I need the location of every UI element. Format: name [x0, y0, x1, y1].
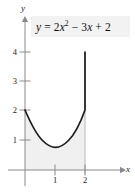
x-tick-label-1: 1	[48, 175, 62, 185]
y-tick-label-4: 4	[4, 47, 17, 57]
y-axis-label: y	[21, 3, 25, 13]
y-axis-arrow-icon	[22, 16, 28, 22]
equation-equals: =	[44, 21, 51, 33]
equation-plus-sign: +	[95, 21, 102, 33]
x-tick-label-2: 2	[78, 175, 92, 185]
shaded-area-under-curve	[25, 52, 85, 170]
y-tick-label-1: 1	[4, 135, 17, 145]
equation-term2-var: x	[87, 21, 92, 33]
x-axis-label: x	[126, 164, 130, 174]
y-tick-label-3: 3	[4, 76, 17, 86]
equation-lhs: y	[36, 21, 41, 33]
equation-minus-sign: −	[72, 21, 79, 33]
equation-constant: 2	[105, 21, 111, 33]
equation-label: y = 2x2 − 3x + 2	[36, 19, 128, 35]
equation-term1-exponent: 2	[65, 19, 69, 28]
graph-figure: y = 2x2 − 3x + 2 y x 1 2 1 2 3 4	[0, 0, 135, 196]
y-tick-label-2: 2	[4, 105, 17, 115]
